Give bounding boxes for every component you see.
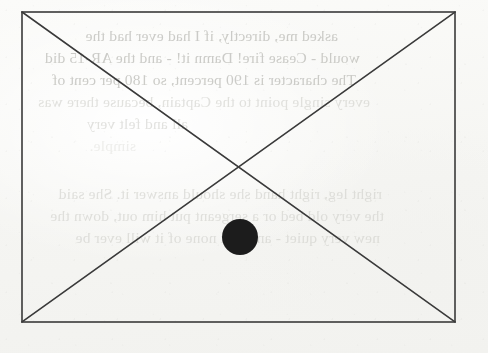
geometric-figure	[0, 0, 488, 353]
figure-filled-circle-marker	[222, 219, 258, 255]
scanned-page: asked me, directly, if I had ever had th…	[0, 0, 488, 353]
